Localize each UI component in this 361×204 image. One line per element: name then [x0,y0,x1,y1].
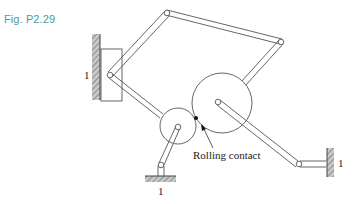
pivot-top-left [164,10,170,16]
ground-label-right: 1 [338,157,344,169]
pivot-bottom [158,162,164,168]
pivot-top-right [278,39,284,45]
pivot-right [296,161,302,167]
ground-label-bottom: 1 [158,185,164,197]
mechanism-diagram: 1 1 1 Rolling contact [0,0,361,204]
rolling-contact-point [194,116,198,120]
ground-bottom-base [145,176,176,182]
link-top-right-to-large-wheel [241,40,283,86]
ground-left-wall [92,34,100,100]
pivot-slider [107,72,113,78]
ground-right-wall [327,148,334,177]
rolling-contact-label: Rolling contact [193,149,261,161]
right-ground-link [300,161,326,167]
pivot-large-wheel [215,99,221,105]
ground-label-left: 1 [84,69,90,81]
link-top [166,10,282,44]
pivot-small-wheel [175,124,181,130]
